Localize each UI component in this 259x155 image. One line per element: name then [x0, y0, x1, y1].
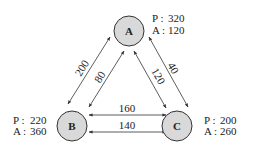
node-c-info: P : 200 A : 260: [204, 114, 237, 137]
node-a-label: A: [125, 25, 133, 37]
edge-weight-b-c-upper: 160: [119, 102, 136, 114]
node-a-info: P : 320 A : 120: [152, 12, 185, 36]
network-diagram: 200 80 120 40 160 140 A P : 320 A : 120 …: [0, 0, 259, 155]
edge-b-c-lower: 140: [89, 119, 166, 132]
node-a-a-value: 120: [168, 24, 185, 36]
node-c-label: C: [173, 120, 181, 132]
edge-weight-a-b-outer: 200: [72, 57, 91, 78]
node-b: B: [57, 111, 87, 141]
node-b-a-label: A :: [13, 125, 26, 137]
node-a: A: [114, 16, 144, 46]
edge-weight-a-b-inner: 80: [92, 69, 108, 85]
node-c-a-value: 260: [220, 125, 237, 137]
node-b-label: B: [68, 120, 76, 132]
edge-weight-b-c-lower: 140: [119, 119, 136, 131]
node-c-a-label: A :: [204, 125, 217, 137]
edge-a-c-inner: 120: [134, 51, 168, 108]
node-a-p-label: P :: [152, 12, 164, 24]
edge-a-b-inner: 80: [89, 51, 124, 107]
edge-weight-a-c-outer: 40: [166, 60, 182, 76]
node-c: C: [162, 111, 192, 141]
node-a-a-label: A :: [152, 24, 165, 36]
edge-b-c-upper: 160: [89, 102, 166, 115]
node-a-p-value: 320: [168, 12, 185, 24]
edge-a-b-outer: 200: [68, 37, 110, 104]
node-b-a-value: 360: [30, 125, 47, 137]
node-b-info: P : 220 A : 360: [13, 114, 47, 137]
